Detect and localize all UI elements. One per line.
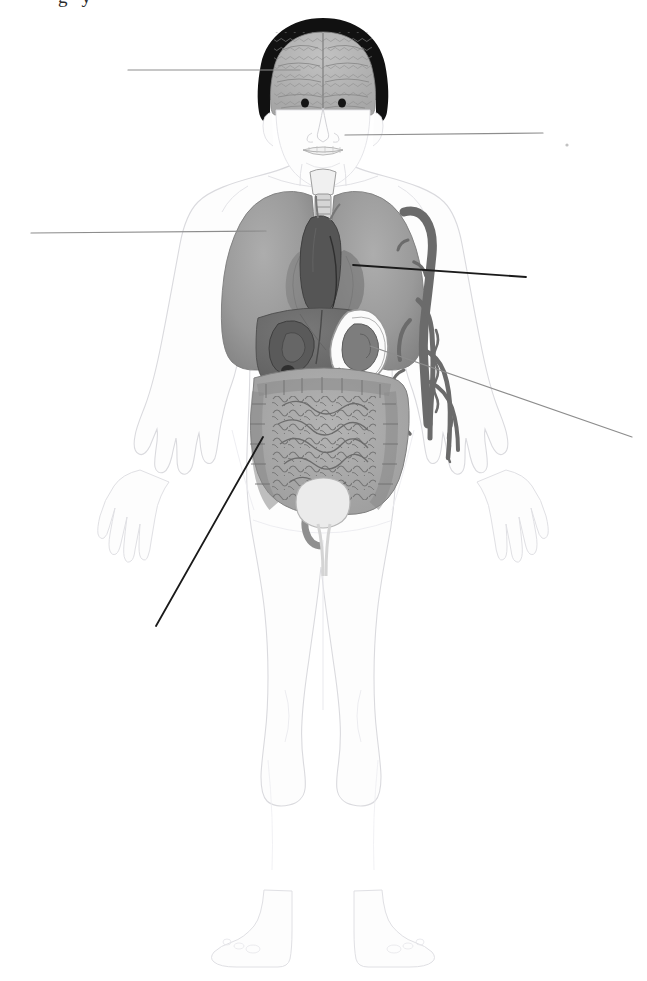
- human-body-figure: [0, 0, 647, 981]
- feet: [212, 890, 435, 967]
- head-region: [258, 18, 389, 188]
- brain-organ: [270, 32, 375, 115]
- anatomy-diagram-page: gy: [0, 0, 647, 981]
- eye-left: [301, 99, 309, 108]
- stray-dot: [565, 143, 568, 146]
- intestine-leader[interactable]: [156, 437, 263, 626]
- eye-right: [338, 99, 346, 108]
- stray-marks-group: [565, 143, 568, 146]
